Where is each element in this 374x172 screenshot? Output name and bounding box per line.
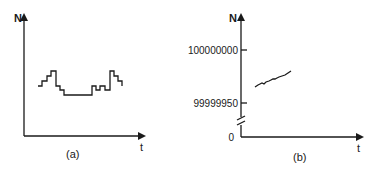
x-axis-label-a: t bbox=[140, 141, 143, 153]
caption-a: (a) bbox=[66, 148, 79, 160]
step-curve-a bbox=[38, 71, 122, 95]
data-line-b bbox=[255, 71, 291, 87]
panel-a: N t (a) bbox=[14, 12, 144, 160]
caption-b: (b) bbox=[293, 151, 306, 163]
panel-b: 100000000 99999950 0 N t (b) bbox=[188, 12, 362, 163]
y-axis-label-b: N bbox=[229, 12, 237, 24]
x-axis-label-b: t bbox=[357, 142, 360, 154]
y-axis-label-a: N bbox=[14, 12, 22, 24]
tick-label-bottom-b: 99999950 bbox=[194, 98, 239, 109]
tick-label-top-b: 100000000 bbox=[188, 45, 238, 56]
figure-canvas: N t (a) 100000000 99999950 0 N t (b) bbox=[0, 0, 374, 172]
origin-label-b: 0 bbox=[228, 132, 234, 143]
